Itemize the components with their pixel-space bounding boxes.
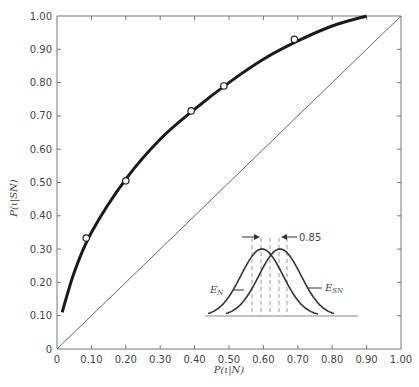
x-tick-label: 0.60 [252,354,274,365]
inset-distributions: EN ESN 0.85 [205,232,358,316]
roc-chart: 00.100.200.300.400.500.600.700.800.901.0… [0,0,419,387]
inset-annotation-value: 0.85 [299,232,321,243]
y-tick-label: 0.10 [30,310,52,321]
y-tick-label: 0.60 [30,144,52,155]
x-tick-label: 0.30 [149,354,171,365]
en-label: EN [209,284,224,297]
roc-curve [62,16,366,312]
x-tick-label: 0.70 [287,354,309,365]
y-tick-label: 0.80 [30,77,52,88]
y-axis-label: P(ι|SN) [8,179,20,218]
data-point [83,235,89,241]
y-tick-label: 0 [46,344,52,355]
x-axis-label: P(ι|N) [213,364,245,376]
arrow-left-icon [281,234,297,240]
data-points [83,36,298,241]
y-tick-label: 0.90 [30,44,52,55]
y-tick-label: 0.30 [30,244,52,255]
x-tick-label: 1.00 [390,354,412,365]
y-tick-label: 0.40 [30,210,52,221]
data-point [123,178,129,184]
y-tick-label: 0.50 [30,177,52,188]
x-tick-label: 0 [54,354,60,365]
y-tick-label: 1.00 [30,11,52,22]
y-tick-labels: 00.100.200.300.400.500.600.700.800.901.0… [30,11,52,355]
x-tick-label: 0.10 [80,354,102,365]
arrow-right-icon [242,234,260,240]
x-tick-label: 0.20 [115,354,137,365]
data-point [188,108,194,114]
y-tick-label: 0.20 [30,277,52,288]
x-tick-label: 0.80 [321,354,343,365]
x-tick-label: 0.40 [183,354,205,365]
data-point [221,83,227,89]
noise-distribution-curve [208,249,318,314]
y-tick-label: 0.70 [30,110,52,121]
signal-noise-distribution-curve [226,249,334,314]
data-point [291,36,297,42]
esn-label: ESN [324,282,344,295]
chance-diagonal [57,16,401,349]
x-tick-label: 0.90 [355,354,377,365]
